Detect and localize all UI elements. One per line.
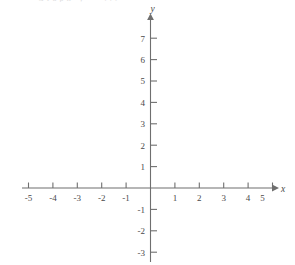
y-tick-label: -2: [138, 226, 146, 236]
x-tick-label: 4: [246, 193, 251, 203]
y-tick-label: 4: [141, 98, 146, 108]
x-tick-label: -4: [49, 193, 57, 203]
x-tick-label: -1: [122, 193, 130, 203]
x-tick-label: -5: [25, 193, 33, 203]
x-tick-label: -2: [98, 193, 106, 203]
y-tick-label: 5: [141, 76, 146, 86]
x-tick-label: 5: [260, 193, 265, 203]
plot-canvas: -5 -4 -3 -2 -1 1 2 3 4 5 7 6 5 4 3 2: [0, 0, 295, 265]
coordinate-plane-figure: Graph y = ... -5 -4 -3 -2 -1 1 2 3 4 5: [0, 0, 295, 265]
y-axis-arrow-icon: [147, 14, 154, 21]
y-tick-label: 6: [141, 55, 146, 65]
x-tick-label: 1: [173, 193, 178, 203]
x-tick-label: 3: [221, 193, 226, 203]
y-tick-label: 2: [141, 141, 146, 151]
y-tick-label: -3: [138, 248, 146, 258]
y-axis-label: y: [149, 4, 155, 14]
x-axis-label: x: [280, 184, 286, 194]
y-tick-label: -1: [138, 205, 146, 215]
x-tick-label: 2: [197, 193, 202, 203]
x-tick-label: -3: [74, 193, 82, 203]
y-tick-label: 1: [141, 162, 146, 172]
y-tick-label: 3: [141, 119, 146, 129]
y-tick-label: 7: [141, 34, 146, 44]
